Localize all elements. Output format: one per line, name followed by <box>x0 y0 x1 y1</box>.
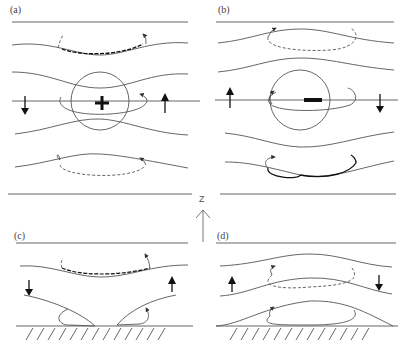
circulation-arrow-d-upper <box>271 266 275 275</box>
panel-b <box>215 22 398 194</box>
isentrope-mid <box>12 72 188 88</box>
up-arrow-head-icon <box>168 276 176 284</box>
down-arrow-head-icon <box>25 289 33 296</box>
circulation-arrow-a-upper <box>143 34 146 44</box>
circulation-thick-b <box>268 168 300 178</box>
up-arrow-head-icon <box>226 87 234 95</box>
isentrope-lower <box>15 119 188 135</box>
isentrope-mid <box>218 58 394 72</box>
ground-hatching-d <box>230 328 369 340</box>
circulation-dashed-b-upper <box>268 28 356 50</box>
vertical-arrows-c <box>25 276 176 296</box>
z-axis-label: Z <box>199 194 205 204</box>
circulation-dashed-c-upper <box>61 258 63 268</box>
isentrope-lower <box>216 301 393 326</box>
ground-hatching-c <box>26 328 165 340</box>
circulation-arrow-c-upper <box>145 254 150 268</box>
panel-d <box>216 243 398 326</box>
figure-canvas <box>0 0 407 347</box>
plus-sign-icon <box>95 96 109 110</box>
panel-c <box>16 243 193 326</box>
circulation-loop-c-left <box>59 309 95 326</box>
down-arrow-head-icon <box>376 106 384 113</box>
panel-label-c: (c) <box>14 230 25 241</box>
down-arrow-head-icon <box>21 108 29 115</box>
minus-sign-icon <box>304 98 322 102</box>
isentrope-upper <box>20 265 188 277</box>
isentrope-bottom <box>15 154 188 168</box>
panel-label-a: (a) <box>10 4 21 15</box>
up-arrow-head-icon <box>161 93 169 101</box>
circulation-arrow-a-lower <box>140 158 146 165</box>
isentrope-lower <box>225 132 394 147</box>
isentrope-bottom <box>225 161 394 176</box>
z-axis <box>196 210 210 242</box>
circulation-thick-c-upper <box>62 268 150 274</box>
panel-label-b: (b) <box>218 4 230 15</box>
down-arrow-head-icon <box>375 284 383 291</box>
isentrope-upper <box>218 29 394 43</box>
circulation-dashed-a-lower <box>60 165 144 175</box>
circulation-loop-d <box>267 310 355 325</box>
circulation-thick-b-right <box>300 155 356 177</box>
circulation-arrow-b-lower <box>266 157 275 168</box>
panel-a <box>8 22 200 194</box>
isentrope-mid <box>220 278 392 296</box>
up-arrow-head-icon <box>228 276 236 284</box>
circulation-thick-a-upper <box>62 44 143 54</box>
panel-label-d: (d) <box>217 230 229 241</box>
isentrope-upper <box>220 254 392 267</box>
circulation-dashed-a-upper <box>58 35 63 48</box>
circulation-loop-c-right <box>117 308 148 325</box>
